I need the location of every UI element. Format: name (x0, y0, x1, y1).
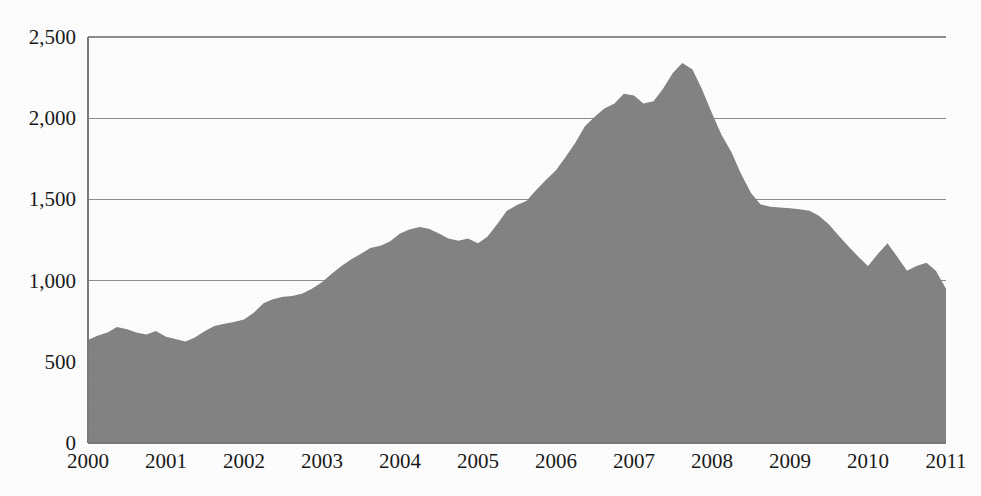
y-tick-label-1500: 1,500 (29, 187, 76, 211)
x-tick-label-2004: 2004 (379, 449, 422, 473)
x-tick-label-2001: 2001 (145, 449, 187, 473)
y-tick-label-2000: 2,000 (29, 106, 76, 130)
x-tick-label-2008: 2008 (691, 449, 733, 473)
x-tick-label-2009: 2009 (769, 449, 811, 473)
chart-canvas: 05001,0001,5002,0002,500 200020012002200… (0, 0, 981, 496)
y-tick-label-2500: 2,500 (29, 25, 76, 49)
x-tick-label-2000: 2000 (67, 449, 109, 473)
x-tick-label-2011: 2011 (925, 449, 966, 473)
x-tick-label-2006: 2006 (535, 449, 577, 473)
area-chart-figure: 05001,0001,5002,0002,500 200020012002200… (0, 0, 981, 496)
area-series-group (88, 63, 946, 443)
x-tick-label-2003: 2003 (301, 449, 343, 473)
y-tick-label-1000: 1,000 (29, 269, 76, 293)
area-path-series-1 (88, 63, 946, 443)
x-tick-label-2010: 2010 (847, 449, 889, 473)
x-axis-tick-labels: 2000200120022003200420052006200720082009… (67, 449, 967, 473)
x-tick-label-2002: 2002 (223, 449, 265, 473)
y-tick-label-500: 500 (45, 350, 77, 374)
x-tick-label-2005: 2005 (457, 449, 499, 473)
x-tick-label-2007: 2007 (613, 449, 655, 473)
y-axis-tick-labels: 05001,0001,5002,0002,500 (29, 25, 76, 455)
